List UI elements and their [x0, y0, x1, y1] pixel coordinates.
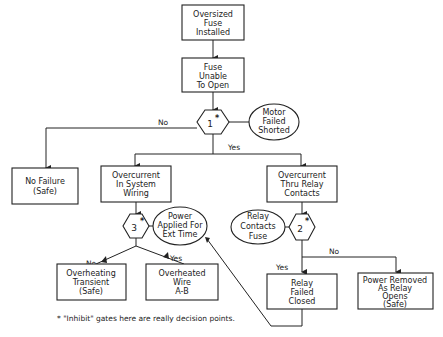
- box-text: Closed: [289, 297, 316, 306]
- condition-text: Shorted: [258, 126, 289, 135]
- box-text: Oversized: [193, 10, 233, 19]
- branch-label-no: No: [158, 118, 169, 127]
- branch-label-yes: Yes: [169, 254, 182, 263]
- box-text: Wiring: [123, 189, 149, 198]
- gate-number: 2: [297, 224, 303, 234]
- box-overcurrent-relay-contacts: Overcurrent Thru Relay Contacts: [267, 166, 337, 202]
- box-text: In System: [116, 180, 156, 189]
- box-power-removed-safe: Power Removed As Relay Opens (Safe): [358, 273, 433, 309]
- condition-text: Power: [168, 212, 193, 221]
- condition-relay-contacts-fuse: Relay Contacts Fuse: [231, 210, 285, 244]
- condition-text: Fuse: [249, 232, 267, 241]
- box-text: No Failure: [25, 177, 65, 186]
- box-text: Installed: [196, 28, 230, 37]
- box-text: Transient: [72, 278, 110, 287]
- box-no-failure-safe: No Failure (Safe): [12, 168, 78, 204]
- arrow-head: [163, 252, 169, 259]
- box-text: Failed: [290, 288, 313, 297]
- condition-text: Relay: [247, 212, 269, 221]
- branch-label-no: No: [329, 247, 340, 256]
- box-text: Thru Relay: [280, 180, 324, 189]
- box-text: Overcurrent: [112, 171, 160, 180]
- box-text: Wire: [173, 278, 191, 287]
- box-text: Unable: [199, 72, 227, 81]
- gate-number: 3: [131, 223, 137, 233]
- inhibit-gate-1: 1 *: [197, 110, 229, 134]
- inhibit-gate-3: 3 *: [123, 214, 149, 238]
- connector-g1-no: [46, 128, 197, 168]
- box-text: To Open: [196, 81, 229, 90]
- box-overcurrent-system-wiring: Overcurrent In System Wiring: [101, 166, 171, 202]
- box-oversized-fuse-installed: Oversized Fuse Installed: [182, 5, 244, 40]
- condition-text: Motor: [262, 108, 286, 117]
- condition-text: Failed: [262, 117, 285, 126]
- box-overheated-wire-ab: Overheated Wire A-B: [146, 264, 218, 300]
- box-text: Contacts: [284, 189, 319, 198]
- branch-label-yes: Yes: [227, 143, 240, 152]
- footnote: * "Inhibit" gates here are really decisi…: [57, 314, 235, 323]
- box-text: Fuse: [204, 19, 222, 28]
- box-fuse-unable-to-open: Fuse Unable To Open: [182, 58, 244, 92]
- box-text: (Safe): [383, 300, 407, 309]
- arrow-head: [101, 256, 107, 263]
- condition-text: Applied For: [157, 221, 203, 230]
- condition-text: Ext Time: [162, 230, 197, 239]
- box-text: Overcurrent: [278, 171, 326, 180]
- condition-text: Contacts: [240, 222, 275, 231]
- box-overheating-transient-safe: Overheating Transient (Safe): [57, 264, 126, 300]
- branch-label-yes: Yes: [275, 263, 288, 272]
- condition-motor-failed-shorted: Motor Failed Shorted: [249, 104, 299, 140]
- box-relay-failed-closed: Relay Failed Closed: [267, 274, 337, 309]
- box-text: Overheated: [158, 269, 205, 278]
- condition-power-applied-ext-time: Power Applied For Ext Time: [153, 207, 207, 245]
- box-text: A-B: [175, 287, 188, 296]
- box-text: Relay: [291, 279, 313, 288]
- inhibit-gate-2: 2 *: [289, 214, 315, 240]
- connector-g3-no: [96, 238, 136, 264]
- box-text: (Safe): [79, 287, 103, 296]
- fault-tree-diagram: Oversized Fuse Installed Fuse Unable To …: [0, 0, 443, 337]
- box-text: Overheating: [66, 269, 116, 278]
- gate-number: 1: [207, 119, 213, 129]
- box-text: (Safe): [33, 187, 57, 196]
- box-text: Fuse: [204, 63, 222, 72]
